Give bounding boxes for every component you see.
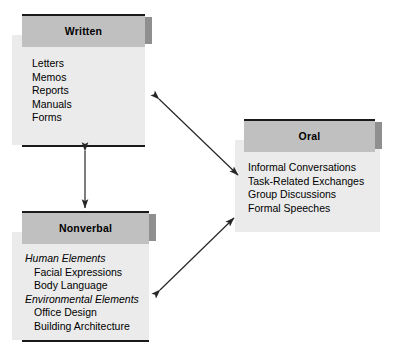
node-nonverbal-title: Nonverbal xyxy=(59,223,112,234)
node-written-bottom-rule xyxy=(22,145,145,147)
node-oral-header[interactable]: Oral xyxy=(244,119,375,152)
list-item: Manuals xyxy=(32,98,72,112)
node-written-header[interactable]: Written xyxy=(22,14,145,47)
node-nonverbal-tab xyxy=(149,214,156,241)
list-item: Facial Expressions xyxy=(25,266,139,280)
node-written-tab xyxy=(145,17,152,44)
list-item: Memos xyxy=(32,71,72,85)
list-item: Body Language xyxy=(25,279,139,293)
connector-nonverbal-oral xyxy=(160,218,234,290)
node-oral-title: Oral xyxy=(299,131,321,142)
list-item: Building Architecture xyxy=(25,320,139,334)
node-oral-tab xyxy=(375,122,382,149)
list-item: Formal Speeches xyxy=(248,202,364,216)
node-written-items: Letters Memos Reports Manuals Forms xyxy=(32,57,72,125)
diagram-canvas: Written Letters Memos Reports Manuals Fo… xyxy=(0,0,398,357)
list-item: Office Design xyxy=(25,306,139,320)
list-item-group: Human Elements xyxy=(25,252,139,266)
node-oral-items: Informal Conversations Task-Related Exch… xyxy=(248,161,364,215)
list-item: Forms xyxy=(32,111,72,125)
list-item: Task-Related Exchanges xyxy=(248,175,364,189)
node-nonverbal-header[interactable]: Nonverbal xyxy=(22,211,149,244)
connector-written-oral xyxy=(159,99,238,175)
node-written-title: Written xyxy=(65,26,102,37)
node-nonverbal-bottom-rule xyxy=(22,340,149,342)
list-item: Reports xyxy=(32,84,72,98)
list-item: Informal Conversations xyxy=(248,161,364,175)
list-item-group: Environmental Elements xyxy=(25,293,139,307)
list-item: Letters xyxy=(32,57,72,71)
list-item: Group Discussions xyxy=(248,188,364,202)
node-nonverbal-items: Human Elements Facial Expressions Body L… xyxy=(25,252,139,334)
